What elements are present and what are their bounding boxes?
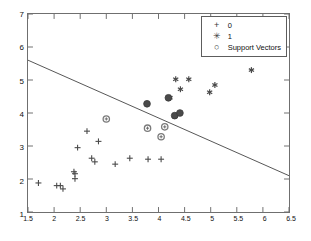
x-tick-label: 6 [263,215,267,222]
legend-box[interactable]: + 0 ✳ 1 ○ Support Vectors [201,16,287,57]
support-vector-filled-marker [165,94,172,101]
legend-entry-support-vectors: ○ Support Vectors [206,42,281,53]
plus-marker [95,138,101,144]
support-vector-open-marker [162,124,168,130]
x-tick-label: 5.5 [234,215,244,222]
support-vector-open-marker [158,134,164,140]
asterisk-marker [249,67,254,73]
x-tick-label: 3.5 [128,215,138,222]
support-vector-open-marker [103,116,109,122]
plus-marker [89,155,95,161]
x-tick-label: 1.5 [23,215,33,222]
asterisk-marker [212,82,217,88]
asterisk-marker [178,86,183,92]
series-filled-circle [144,94,184,119]
legend-label-1: 1 [228,31,232,42]
legend-label-support-vectors: Support Vectors [228,42,281,53]
support-vector-open-marker [144,125,150,131]
support-vector-filled-marker [144,100,151,107]
plus-marker-icon: + [206,20,228,31]
y-tick-label: 6 [20,43,24,52]
x-tick-label: 2.5 [76,215,86,222]
plus-marker [112,161,118,167]
x-tick-label: 2 [52,215,56,222]
x-tick-label: 4 [158,215,162,222]
series-plus [35,128,164,192]
y-tick-label: 4 [20,110,24,119]
y-tick-label: 2 [20,176,24,185]
plus-marker [92,159,98,165]
x-tick-label: 6.5 [286,215,296,222]
plus-marker [158,156,164,162]
decision-boundary-line [28,60,289,176]
legend-label-0: 0 [228,20,232,31]
asterisk-marker-icon: ✳ [206,31,228,42]
plus-marker [72,176,78,182]
asterisk-marker [207,89,212,95]
asterisk-marker [173,76,178,82]
x-tick-label: 5 [210,215,214,222]
x-tick-label: 3 [105,215,109,222]
legend-entry-0: + 0 [206,20,281,31]
asterisk-marker [186,76,191,82]
plus-marker [84,128,90,134]
circle-marker-icon: ○ [206,42,228,53]
plus-marker [75,145,81,151]
support-vector-filled-marker [177,110,184,117]
series-open-circle [103,116,168,140]
plus-marker [35,180,41,186]
scatter-plot-figure: 1234567 1.522.533.544.555.566.5 + 0 ✳ 1 … [0,0,311,241]
legend-entry-1: ✳ 1 [206,31,281,42]
data-series-group [35,67,254,192]
y-tick-label: 3 [20,143,24,152]
y-tick-label: 7 [20,10,24,19]
plot-area: 1234567 1.522.533.544.555.566.5 + 0 ✳ 1 … [27,13,290,213]
y-tick-label: 5 [20,76,24,85]
x-tick-label: 4.5 [181,215,191,222]
plus-marker [145,156,151,162]
plus-marker [127,155,133,161]
